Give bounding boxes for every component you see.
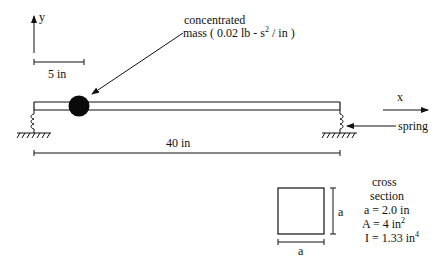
span-dimension-line (34, 150, 340, 156)
left-spring (31, 110, 34, 133)
y-axis-label: y (39, 10, 45, 24)
cross-section-square (278, 188, 324, 234)
concentrated-mass (69, 96, 90, 117)
cross-section-a-value: a = 2.0 in (364, 203, 409, 217)
cross-section-width-label: a (298, 244, 304, 258)
x-axis-label: x (397, 90, 403, 104)
mass-callout-line2: mass ( 0.02 lb - s2 / in ) (183, 25, 295, 40)
cross-section-height-label: a (338, 205, 344, 219)
cross-section-title-line2: section (370, 189, 404, 203)
cross-section-height-dimension (330, 188, 336, 234)
span-label: 40 in (166, 136, 190, 150)
right-ground-support (322, 133, 357, 138)
cross-section-inertia: I = 1.33 in4 (365, 230, 419, 245)
scale-bar-5in (34, 59, 84, 65)
scale-bar-label: 5 in (48, 67, 66, 81)
cross-section-area: A = 4 in2 (362, 216, 405, 231)
spring-label: spring (398, 119, 428, 133)
right-spring (340, 110, 343, 133)
beam-diagram: y 5 in concentrated mass ( 0.02 lb - s2 … (0, 0, 438, 266)
mass-callout-line1: concentrated (184, 13, 245, 27)
cross-section-title-line1: cross (372, 175, 397, 189)
mass-leader-arrow (92, 33, 183, 94)
left-ground-support (17, 133, 51, 138)
